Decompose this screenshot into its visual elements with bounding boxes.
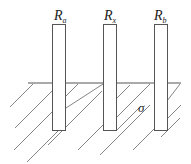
electrode-a <box>53 25 66 131</box>
electrode-x <box>104 25 117 131</box>
electrode-diagram: Ra Rx Rb σ <box>0 0 191 164</box>
electrode-a-label: Ra <box>53 8 67 25</box>
conductivity-label: σ <box>138 100 145 115</box>
electrode-x-label: Rx <box>103 8 117 25</box>
electrode-b <box>155 25 168 131</box>
electrode-b-label: Rb <box>153 8 167 25</box>
